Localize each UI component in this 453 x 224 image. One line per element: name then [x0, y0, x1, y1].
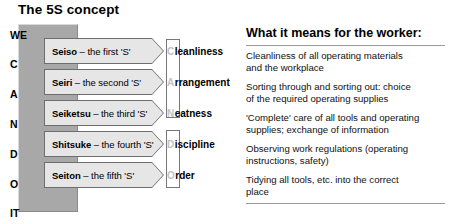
acronym-letter: C — [10, 59, 18, 70]
meaning-word-remainder: rder — [175, 170, 194, 181]
meaning-word: Arrangement — [167, 69, 230, 95]
five-s-label: Shitsuke– the fourth 'S' — [52, 131, 154, 157]
five-s-term: Seiton — [52, 170, 81, 181]
worker-meaning-item: Sorting through and sorting out: choiceo… — [246, 81, 449, 104]
meaning-word-remainder: leanliness — [175, 46, 223, 57]
five-s-label: Seiso– the first 'S' — [52, 38, 131, 64]
five-s-description: – the fifth 'S' — [83, 170, 134, 181]
acronym-letter: O — [10, 179, 18, 190]
meaning-initial-letter: A — [167, 77, 174, 88]
acronym-letter: D — [10, 149, 18, 160]
worker-meaning-line: place — [246, 186, 449, 198]
meaning-initial-letter: O — [167, 170, 175, 181]
five-s-arrow-row: Seiso– the first 'S' — [44, 38, 164, 64]
meaning-word: Cleanliness — [167, 38, 223, 64]
meaning-word-remainder: eatness — [175, 108, 212, 119]
divider-top — [246, 45, 445, 46]
worker-meaning-line: of the required operating supplies — [246, 93, 449, 105]
five-s-arrow-row: Seiton– the fifth 'S' — [44, 162, 164, 188]
meaning-initial-letter: C — [167, 46, 174, 57]
acronym-letter: IT — [10, 208, 19, 219]
five-s-arrow-row: Seiketsu– the third 'S' — [44, 100, 164, 126]
worker-panel-heading: What it means for the worker: — [246, 26, 422, 40]
meaning-word-remainder: iscipline — [175, 139, 215, 150]
meaning-word: Neatness — [167, 100, 212, 126]
five-s-term: Seiri — [52, 77, 72, 88]
five-s-label: Seiton– the fifth 'S' — [52, 162, 134, 188]
meaning-word: Order — [167, 162, 195, 188]
five-s-label: Seiri– the second 'S' — [52, 69, 141, 95]
five-s-description: – the third 'S' — [93, 108, 147, 119]
five-s-description: – the fourth 'S' — [94, 139, 154, 150]
acronym-letter: N — [10, 119, 18, 130]
five-s-arrow-row: Shitsuke– the fourth 'S' — [44, 131, 164, 157]
acronym-letter: A — [10, 89, 18, 100]
five-s-term: Seiketsu — [52, 108, 91, 119]
five-s-term: Shitsuke — [52, 139, 91, 150]
worker-meaning-item: Observing work regulations (operatingins… — [246, 143, 449, 166]
divider-bottom — [246, 203, 445, 204]
worker-meaning-line: instructions, safety) — [246, 155, 449, 167]
five-s-description: – the second 'S' — [75, 77, 141, 88]
five-s-arrow-row: Seiri– the second 'S' — [44, 69, 164, 95]
worker-meaning-item: 'Complete' care of all tools and operati… — [246, 112, 449, 135]
meaning-initial-letter: D — [167, 139, 174, 150]
meaning-word-remainder: rrangement — [175, 77, 230, 88]
five-s-description: – the first 'S' — [80, 46, 131, 57]
page-title: The 5S concept — [18, 2, 119, 17]
meaning-word: Discipline — [167, 131, 215, 157]
worker-meaning-line: Cleanliness of all operating materials — [246, 50, 449, 62]
meaning-initial-letter: N — [167, 108, 174, 119]
worker-meaning-line: 'Complete' care of all tools and operati… — [246, 112, 449, 124]
worker-meaning-item: Tidying all tools, etc. into the correct… — [246, 174, 449, 197]
five-s-label: Seiketsu– the third 'S' — [52, 100, 147, 126]
five-s-term: Seiso — [52, 46, 77, 57]
worker-meaning-line: supplies; exchange of information — [246, 124, 449, 136]
acronym-letter: WE — [10, 30, 27, 41]
worker-meaning-line: and the workplace — [246, 62, 449, 74]
worker-meaning-line: Tidying all tools, etc. into the correct — [246, 174, 449, 186]
worker-meaning-line: Sorting through and sorting out: choice — [246, 81, 449, 93]
worker-meaning-line: Observing work regulations (operating — [246, 143, 449, 155]
worker-meaning-item: Cleanliness of all operating materialsan… — [246, 50, 449, 73]
